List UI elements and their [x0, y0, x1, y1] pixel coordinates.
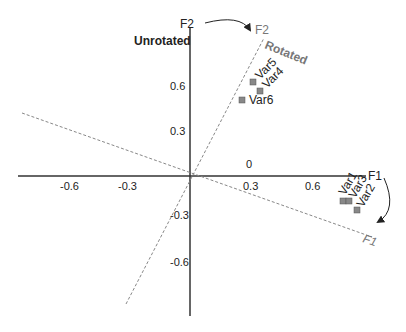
point-var3 — [346, 198, 352, 204]
point-var1 — [340, 198, 346, 204]
x-tick: -0.6 — [60, 180, 79, 192]
point-var2 — [354, 207, 360, 213]
origin-label: 0 — [246, 158, 252, 170]
x-tick: 0.3 — [243, 180, 258, 192]
rotated-f1-axis — [22, 113, 372, 237]
point-var5 — [250, 79, 256, 85]
x-tick: -0.3 — [118, 180, 137, 192]
f1-rotation-arrow-icon — [378, 178, 390, 222]
f1-label: F1 — [368, 169, 382, 183]
point-label-var6: Var6 — [249, 93, 274, 107]
f2-rotation-arrow-icon — [205, 20, 250, 30]
y-tick: 0.3 — [170, 125, 185, 137]
f1-rotated-label: F1 — [361, 232, 379, 250]
factor-rotation-chart: F2 F2 F1 F1 Unrotated Rotated 0 -0.6 -0.… — [0, 0, 406, 332]
y-tick: -0.3 — [170, 209, 189, 221]
unrotated-label: Unrotated — [134, 34, 191, 48]
f2-label: F2 — [180, 17, 194, 31]
rotated-f2-axis — [126, 38, 264, 304]
y-tick: -0.6 — [170, 256, 189, 268]
y-tick: 0.6 — [170, 80, 185, 92]
f2-rotated-label: F2 — [255, 23, 269, 37]
x-tick: 0.6 — [305, 180, 320, 192]
point-var6 — [239, 97, 245, 103]
